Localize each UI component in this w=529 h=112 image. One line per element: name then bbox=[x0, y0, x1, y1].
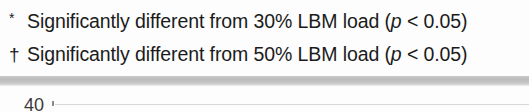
p-symbol-asterisk: p bbox=[391, 10, 402, 32]
y-axis-tick-label-40: 40 bbox=[24, 96, 44, 112]
p-symbol-dagger: p bbox=[391, 43, 402, 65]
chart-fragment bbox=[0, 88, 529, 112]
asterisk-marker-icon: * bbox=[0, 11, 27, 25]
footnote-text-before-asterisk: Significantly different from 30% LBM loa… bbox=[27, 10, 391, 32]
y-axis-tick-mark bbox=[52, 101, 54, 106]
section-separator-band bbox=[0, 76, 529, 85]
footnote-text-after-dagger: < 0.05) bbox=[402, 43, 468, 65]
footnote-item-dagger: † Significantly different from 50% LBM l… bbox=[0, 38, 529, 71]
footnote-text-before-dagger: Significantly different from 50% LBM loa… bbox=[27, 43, 391, 65]
chart-gridline bbox=[55, 104, 529, 105]
footnote-item-asterisk: * Significantly different from 30% LBM l… bbox=[0, 5, 529, 38]
footnote-text-dagger: Significantly different from 50% LBM loa… bbox=[27, 45, 529, 65]
footnote-text-after-asterisk: < 0.05) bbox=[402, 10, 468, 32]
footnote-text-asterisk: Significantly different from 30% LBM loa… bbox=[27, 12, 529, 32]
dagger-marker-icon: † bbox=[0, 45, 27, 64]
footnote-panel: * Significantly different from 30% LBM l… bbox=[0, 0, 529, 112]
